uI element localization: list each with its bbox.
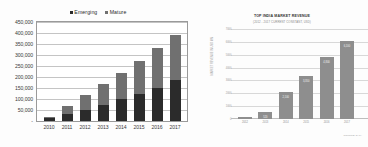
plot-area: 70006000500040003000200010000 1805202,10… bbox=[234, 29, 358, 119]
legend-item-mature: Mature bbox=[105, 9, 127, 15]
x-axis-labels: 201220132014201520162017 bbox=[234, 121, 358, 124]
y-axis-tick-label: 300,000 bbox=[15, 52, 33, 58]
y-axis-tick-label: 3000 bbox=[226, 79, 232, 82]
bar: 180 bbox=[238, 117, 252, 119]
x-axis-tick-label: 2017 bbox=[340, 121, 354, 124]
x-axis-tick-label: 2016 bbox=[152, 124, 163, 130]
y-axis-tick-label: 400,000 bbox=[15, 30, 33, 36]
bar-segment-mature bbox=[116, 73, 127, 100]
chart-legend: Emerging Mature bbox=[0, 9, 196, 15]
x-axis-tick-label: 2014 bbox=[279, 121, 293, 124]
bar: 3,350 bbox=[299, 76, 313, 119]
plot-area bbox=[37, 22, 187, 121]
y-axis-tick-label: 50,000 bbox=[18, 107, 33, 113]
x-axis-tick-label: 2010 bbox=[44, 124, 55, 130]
bar-column: 6,100 bbox=[340, 41, 354, 119]
bar-value-label: 4,800 bbox=[320, 61, 334, 64]
bar-segment-emerging bbox=[98, 105, 109, 121]
stacked-bar bbox=[98, 84, 109, 121]
y-axis-tick-label: 2000 bbox=[226, 92, 232, 95]
y-axis-tick-label: 1000 bbox=[226, 105, 232, 108]
y-axis-tick-label: 450,000 bbox=[15, 19, 33, 25]
stacked-bar bbox=[44, 117, 55, 121]
x-axis-tick-label: 2017 bbox=[170, 124, 181, 130]
y-axis-tick-label: 6000 bbox=[226, 40, 232, 43]
x-axis-tick-label: 2013 bbox=[258, 121, 272, 124]
bar: 2,100 bbox=[279, 92, 293, 119]
bar-segment-emerging bbox=[116, 99, 127, 121]
x-axis-tick-label: 2015 bbox=[134, 124, 145, 130]
bar-column: 3,350 bbox=[299, 76, 313, 119]
bar-segment-mature bbox=[98, 84, 109, 105]
y-axis-tick-label: 200,000 bbox=[15, 74, 33, 80]
y-axis-tick-label: 250,000 bbox=[15, 63, 33, 69]
bar-chart-top-india-market-revenue: TOP INDIA MARKET REVENUE (2012 - 2017 CU… bbox=[196, 0, 368, 147]
stacked-bar bbox=[62, 106, 73, 121]
bar-segment-mature bbox=[62, 106, 73, 114]
bar-value-label: 2,100 bbox=[279, 96, 293, 99]
bar-column: 4,800 bbox=[320, 57, 334, 119]
bar-value-label: 520 bbox=[258, 116, 272, 119]
chart-subtitle: (2012 - 2017 CURRENT CONSTANT, USD) bbox=[196, 20, 368, 24]
stacked-bar bbox=[116, 73, 127, 121]
bar-segment-emerging bbox=[62, 114, 73, 121]
legend-label-emerging: Emerging bbox=[74, 9, 97, 15]
y-axis-tick-label: 7000 bbox=[226, 28, 232, 31]
dual-chart-figure: Emerging Mature 450,000400,000350,000300… bbox=[0, 0, 368, 147]
bar: 4,800 bbox=[320, 57, 334, 119]
bar-segment-emerging bbox=[134, 94, 145, 121]
source-note: SOURCE: DATA bbox=[344, 134, 362, 137]
stacked-bar bbox=[80, 95, 91, 121]
y-axis-labels: 450,000400,000350,000300,000250,000200,0… bbox=[0, 18, 34, 125]
bar: 6,100 bbox=[340, 41, 354, 119]
x-axis-labels: 20102011201220132014201520162017 bbox=[37, 124, 187, 130]
stacked-bar bbox=[152, 48, 163, 121]
bar-segment-emerging bbox=[170, 80, 181, 121]
legend-label-mature: Mature bbox=[110, 9, 127, 15]
bar-segment-emerging bbox=[152, 88, 163, 121]
y-axis-tick-label: 100,000 bbox=[15, 96, 33, 102]
bar: 520 bbox=[258, 112, 272, 119]
bar-segment-mature bbox=[152, 48, 163, 87]
bar-value-label: 3,350 bbox=[299, 80, 313, 83]
bar-segment-emerging bbox=[80, 110, 91, 121]
x-axis-tick-label: 2014 bbox=[116, 124, 127, 130]
bar-column: 180 bbox=[238, 117, 252, 119]
bar-column: 2,100 bbox=[279, 92, 293, 119]
y-axis-tick-label: - bbox=[31, 118, 33, 124]
bar-series-group bbox=[37, 22, 187, 121]
bar-series-group: 1805202,1003,3504,8006,100 bbox=[234, 29, 358, 119]
x-axis-tick-label: 2012 bbox=[238, 121, 252, 124]
bar-segment-mature bbox=[80, 95, 91, 110]
legend-swatch-emerging bbox=[70, 11, 73, 14]
x-axis-tick-label: 2011 bbox=[62, 124, 73, 130]
y-axis-tick-label: 4000 bbox=[226, 66, 232, 69]
x-axis-tick-label: 2016 bbox=[320, 121, 334, 124]
x-axis-tick-label: 2015 bbox=[299, 121, 313, 124]
bar-segment-emerging bbox=[44, 118, 55, 121]
bar-column: 520 bbox=[258, 112, 272, 119]
x-axis-tick-label: 2012 bbox=[80, 124, 91, 130]
stacked-bar bbox=[170, 35, 181, 121]
bar-segment-mature bbox=[170, 35, 181, 79]
y-axis-tick-label: 350,000 bbox=[15, 41, 33, 47]
stacked-bar bbox=[134, 61, 145, 121]
bar-value-label: 6,100 bbox=[340, 45, 354, 48]
legend-item-emerging: Emerging bbox=[70, 9, 98, 15]
bar-segment-mature bbox=[134, 61, 145, 94]
stacked-bar-chart-emerging-mature: Emerging Mature 450,000400,000350,000300… bbox=[0, 0, 196, 147]
y-axis-tick-label: 150,000 bbox=[15, 85, 33, 91]
x-axis-tick-label: 2013 bbox=[98, 124, 109, 130]
y-axis-tick-label: 5000 bbox=[226, 53, 232, 56]
legend-swatch-mature bbox=[105, 11, 108, 14]
chart-title: TOP INDIA MARKET REVENUE bbox=[196, 14, 368, 18]
y-axis-title: MARKET REVENUE IN USD MN bbox=[211, 37, 214, 75]
